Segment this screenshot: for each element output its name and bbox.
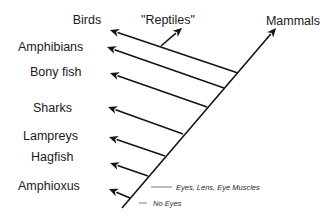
annotation-eyes-lens-eye-muscles: Eyes, Lens, Eye Muscles [151, 183, 260, 192]
label-mammals: Mammals [266, 14, 320, 28]
label-lampreys: Lampreys [23, 129, 78, 143]
trunk-mammals-branch [122, 28, 276, 208]
branch-amphioxus-line [116, 192, 130, 198]
label-amphioxus: Amphioxus [18, 179, 80, 193]
branch-hagfish [110, 162, 148, 176]
branches [107, 28, 276, 208]
branch-amphioxus [109, 189, 130, 198]
branch-hagfish-line [118, 166, 148, 176]
branch-reptiles-line [161, 33, 176, 46]
label-sharks: Sharks [33, 101, 72, 115]
label-hagfish: Hagfish [31, 150, 73, 164]
branch-reptiles [161, 28, 182, 46]
label-birds: Birds [73, 13, 101, 27]
branch-amphibians-line [115, 50, 224, 88]
branch-amphibians [107, 46, 224, 88]
label-reptiles: "Reptiles" [141, 13, 195, 27]
label-amphibians: Amphibians [18, 40, 83, 54]
branch-lampreys-line [117, 140, 165, 156]
branch-birds-line [118, 33, 238, 73]
branch-sharks-line [116, 110, 183, 134]
character-annotations: Eyes, Lens, Eye MusclesNo Eyes [139, 183, 260, 208]
branch-bony-fish-line [118, 76, 207, 107]
branch-sharks [108, 106, 183, 134]
annotation-text: No Eyes [153, 199, 182, 208]
branch-lampreys [109, 136, 165, 156]
cladogram-diagram: BirdsAmphibiansBony fishSharksLampreysHa… [0, 0, 336, 220]
annotation-no-eyes: No Eyes [139, 199, 182, 208]
label-bony-fish: Bony fish [30, 65, 81, 79]
annotation-text: Eyes, Lens, Eye Muscles [176, 183, 260, 192]
